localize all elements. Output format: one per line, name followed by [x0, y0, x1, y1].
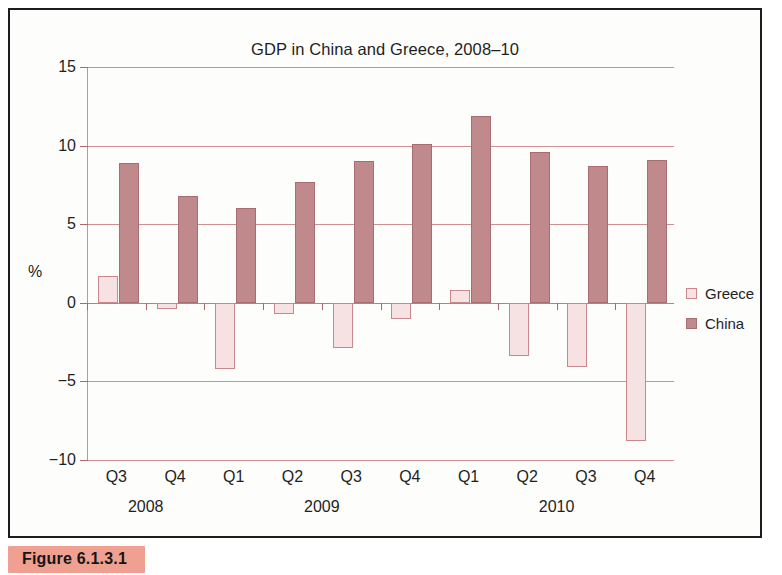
gridline-5: [87, 224, 674, 225]
bar-china-7: [530, 152, 550, 303]
gridline-15: [87, 67, 674, 68]
bar-china-2: [236, 208, 256, 302]
x-tick-7: [498, 303, 499, 310]
chart-title: GDP in China and Greece, 2008–10: [10, 40, 760, 59]
bar-china-3: [295, 182, 315, 303]
plot-area: 151050−5−10: [87, 67, 674, 460]
x-axis-year-2010: 2010: [539, 498, 575, 516]
bar-china-6: [471, 116, 491, 303]
x-axis-label-7: Q2: [517, 468, 538, 486]
bar-china-9: [647, 160, 667, 303]
legend-item-china[interactable]: China: [686, 315, 782, 332]
bar-greece-7: [509, 303, 529, 356]
bar-greece-3: [274, 303, 294, 314]
bar-greece-9: [626, 303, 646, 441]
bar-greece-8: [567, 303, 587, 367]
y-axis-title: %: [28, 263, 42, 281]
legend-label-china: China: [705, 315, 744, 332]
x-axis-label-4: Q3: [340, 468, 361, 486]
y-tick--10: [80, 460, 88, 461]
x-axis-label-9: Q4: [634, 468, 655, 486]
bar-china-0: [119, 163, 139, 303]
bar-greece-1: [157, 303, 177, 309]
bar-greece-2: [215, 303, 235, 369]
legend-item-greece[interactable]: Greece: [686, 285, 782, 302]
bar-china-8: [588, 166, 608, 303]
x-tick-1: [146, 303, 147, 310]
bar-china-4: [354, 161, 374, 302]
x-axis-label-6: Q1: [458, 468, 479, 486]
bar-greece-0: [98, 276, 118, 303]
y-tick-10: [80, 146, 88, 147]
x-axis-label-0: Q3: [106, 468, 127, 486]
y-axis-label--10: −10: [49, 451, 76, 469]
y-tick-15: [80, 67, 88, 68]
figure-caption-text: Figure 6.1.3.1: [22, 550, 127, 567]
x-axis-year-2009: 2009: [304, 498, 340, 516]
gridline--10: [87, 460, 674, 461]
y-axis-label-15: 15: [58, 58, 76, 76]
y-axis-line: [87, 67, 88, 460]
bar-china-1: [178, 196, 198, 303]
x-tick-6: [439, 303, 440, 310]
bar-greece-5: [391, 303, 411, 319]
x-axis-year-2008: 2008: [128, 498, 164, 516]
x-tick-9: [615, 303, 616, 310]
x-axis-label-1: Q4: [164, 468, 185, 486]
y-axis-label-0: 0: [67, 294, 76, 312]
gridline--5: [87, 381, 674, 382]
x-tick-5: [381, 303, 382, 310]
bar-china-5: [412, 144, 432, 303]
x-tick-3: [263, 303, 264, 310]
x-axis-label-5: Q4: [399, 468, 420, 486]
x-axis-label-2: Q1: [223, 468, 244, 486]
y-axis-label-5: 5: [67, 215, 76, 233]
y-axis-label--5: −5: [58, 372, 76, 390]
y-tick-5: [80, 224, 88, 225]
x-tick-8: [557, 303, 558, 310]
y-tick--5: [80, 381, 88, 382]
legend-label-greece: Greece: [705, 285, 754, 302]
legend-swatch-china-icon: [686, 318, 697, 329]
chart-legend: GreeceChina: [686, 285, 782, 345]
figure-caption-band: Figure 6.1.3.1: [8, 546, 145, 573]
x-tick-0: [87, 303, 88, 310]
gridline-10: [87, 146, 674, 147]
x-axis-label-3: Q2: [282, 468, 303, 486]
x-tick-4: [322, 303, 323, 310]
bar-greece-6: [450, 290, 470, 303]
figure-frame: GDP in China and Greece, 2008–10 % 15105…: [8, 8, 762, 538]
x-axis-label-8: Q3: [575, 468, 596, 486]
bar-greece-4: [333, 303, 353, 349]
legend-swatch-greece-icon: [686, 288, 697, 299]
y-axis-label-10: 10: [58, 137, 76, 155]
x-tick-2: [204, 303, 205, 310]
